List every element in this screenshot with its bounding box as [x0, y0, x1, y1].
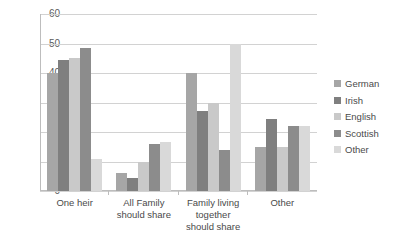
bar-groups	[40, 14, 317, 191]
x-axis-group-tick	[247, 191, 248, 195]
x-axis-label-2: Family living together should share	[179, 197, 248, 233]
bar-group	[40, 14, 109, 191]
bar-german-2[interactable]	[186, 73, 197, 191]
bar-irish-0[interactable]	[58, 60, 69, 191]
bar-german-0[interactable]	[47, 73, 58, 191]
bar-english-0[interactable]	[69, 58, 80, 191]
legend-label: English	[345, 112, 376, 122]
legend-item-scottish[interactable]: Scottish	[334, 129, 379, 139]
x-axis-label-0: One heir	[40, 197, 109, 233]
legend-item-english[interactable]: English	[334, 112, 379, 122]
legend-label: German	[345, 79, 379, 89]
bar-scottish-2[interactable]	[219, 150, 230, 191]
bar-scottish-1[interactable]	[149, 144, 160, 191]
bar-english-1[interactable]	[138, 162, 149, 192]
bar-chart: 6050403020100 One heirAll Family should …	[0, 0, 406, 248]
legend-swatch-icon	[334, 146, 341, 153]
plot-area	[40, 14, 317, 191]
legend-label: Irish	[345, 96, 363, 106]
bar-english-3[interactable]	[277, 147, 288, 191]
bar-scottish-3[interactable]	[288, 126, 299, 191]
bar-scottish-0[interactable]	[80, 48, 91, 191]
legend-swatch-icon	[334, 130, 341, 137]
bar-group	[179, 14, 248, 191]
legend-item-other[interactable]: Other	[334, 145, 379, 155]
x-axis-group-tick	[178, 191, 179, 195]
bar-group	[109, 14, 178, 191]
bar-german-1[interactable]	[116, 173, 127, 191]
bar-german-3[interactable]	[255, 147, 266, 191]
bar-irish-3[interactable]	[266, 119, 277, 191]
gridline	[40, 191, 317, 192]
bar-group	[248, 14, 317, 191]
legend-label: Other	[345, 145, 369, 155]
legend-swatch-icon	[334, 113, 341, 120]
bar-other-2[interactable]	[230, 44, 241, 192]
legend-item-german[interactable]: German	[334, 79, 379, 89]
legend-label: Scottish	[345, 129, 379, 139]
chart-legend: GermanIrishEnglishScottishOther	[334, 79, 379, 155]
x-axis-label-3: Other	[248, 197, 317, 233]
bar-irish-1[interactable]	[127, 178, 138, 191]
bar-other-3[interactable]	[299, 126, 310, 191]
legend-item-irish[interactable]: Irish	[334, 96, 379, 106]
legend-swatch-icon	[334, 80, 341, 87]
x-axis-labels: One heirAll Family should shareFamily li…	[40, 197, 317, 233]
bar-irish-2[interactable]	[197, 111, 208, 191]
bar-other-1[interactable]	[160, 142, 171, 191]
bar-other-0[interactable]	[91, 159, 102, 191]
legend-swatch-icon	[334, 97, 341, 104]
x-axis-group-tick	[108, 191, 109, 195]
bar-english-2[interactable]	[208, 103, 219, 192]
x-axis-label-1: All Family should share	[109, 197, 178, 233]
